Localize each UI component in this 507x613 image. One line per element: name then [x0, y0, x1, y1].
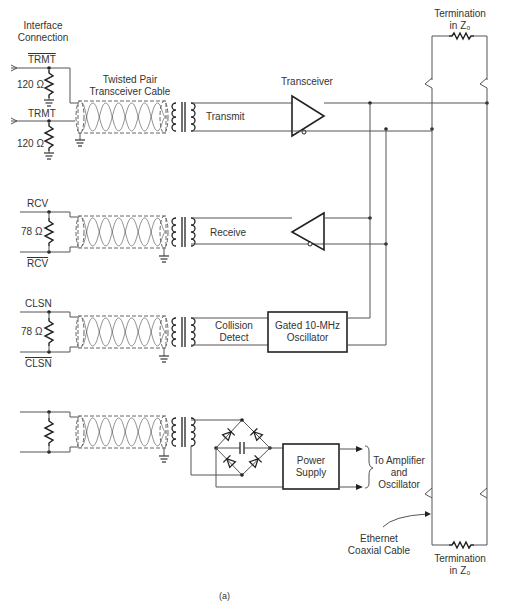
- receive-channel: [20, 210, 388, 262]
- collision-line2: Detect: [204, 332, 264, 344]
- cable-label-line2: Transceiver Cable: [80, 86, 180, 98]
- collision-detect-label: Collision Detect: [204, 320, 264, 344]
- transmit-label: Transmit: [206, 111, 245, 123]
- power-line1: Power: [283, 455, 339, 467]
- twisted-pair-cable-label: Twisted Pair Transceiver Cable: [80, 74, 180, 98]
- ethernet-transceiver-schematic: [0, 0, 507, 613]
- interface-connection-title: Interface Connection: [14, 20, 72, 44]
- term-top-line1: Termination: [428, 8, 492, 20]
- oscillator-line2: Oscillator: [268, 332, 347, 344]
- coax-line1: Ethernet: [345, 533, 413, 545]
- rcv-bar-label: RCV: [27, 258, 48, 270]
- ethernet-coax-label: Ethernet Coaxial Cable: [345, 533, 413, 557]
- to-amp-line3: Oscillator: [370, 479, 428, 491]
- interface-title-line2: Connection: [14, 32, 72, 44]
- to-amplifier-label: To Amplifier and Oscillator: [370, 455, 428, 491]
- r-trmt-bar-label: 120 Ω: [17, 79, 44, 91]
- term-top-line2: in Z₀: [428, 20, 492, 32]
- coax-line2: Coaxial Cable: [345, 545, 413, 557]
- power-supply-label: Power Supply: [283, 455, 339, 479]
- term-bottom-line1: Termination: [428, 553, 492, 565]
- oscillator-label: Gated 10-MHz Oscillator: [268, 320, 347, 344]
- term-bottom-line2: in Z₀: [428, 565, 492, 577]
- rcv-label: RCV: [27, 198, 48, 210]
- transceiver-label: Transceiver: [281, 76, 333, 88]
- to-amp-line1: To Amplifier: [370, 455, 428, 467]
- to-amp-line2: and: [370, 467, 428, 479]
- clsn-label: CLSN: [25, 298, 52, 310]
- trmt-bar-label: TRMT: [28, 54, 56, 66]
- oscillator-line1: Gated 10-MHz: [268, 320, 347, 332]
- collision-line1: Collision: [204, 320, 264, 332]
- termination-top-label: Termination in Z₀: [428, 8, 492, 32]
- clsn-bar-label: CLSN: [25, 358, 52, 370]
- trmt-label: TRMT: [28, 108, 56, 120]
- r-clsn-label: 78 Ω: [21, 326, 42, 338]
- r-rcv-label: 78 Ω: [21, 226, 42, 238]
- internal-bus: [370, 103, 386, 345]
- receive-label: Receive: [210, 227, 246, 239]
- cable-label-line1: Twisted Pair: [80, 74, 180, 86]
- r-trmt-label: 120 Ω: [17, 138, 44, 150]
- figure-label: (a): [219, 590, 230, 602]
- interface-title-line1: Interface: [14, 20, 72, 32]
- termination-bottom-label: Termination in Z₀: [428, 553, 492, 577]
- power-line2: Supply: [283, 467, 339, 479]
